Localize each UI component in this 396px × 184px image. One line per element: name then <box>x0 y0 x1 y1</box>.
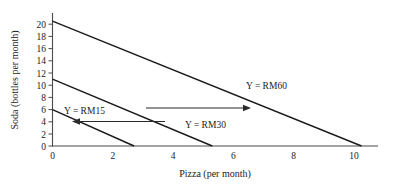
y-tick-label-12: 12 <box>37 69 47 79</box>
x-tick-label-4: 4 <box>171 151 176 161</box>
y-tick-label-4: 4 <box>41 117 46 127</box>
y-tick-label-2: 2 <box>41 130 46 140</box>
y-tick-label-0: 0 <box>41 142 46 152</box>
chart-background <box>0 0 396 184</box>
y-tick-label-20: 20 <box>37 20 47 30</box>
budget-constraint-chart: 0 2 4 6 8 10 12 14 16 18 20 0 2 4 6 8 10 <box>0 0 396 184</box>
y-tick-label-8: 8 <box>41 93 46 103</box>
x-tick-label-0: 0 <box>50 151 55 161</box>
y-tick-label-18: 18 <box>37 32 47 42</box>
y-axis-title: Soda (bottles per month) <box>9 30 21 129</box>
x-axis-title: Pizza (per month) <box>179 168 251 180</box>
series-label-rm15: Y = RM15 <box>64 106 105 116</box>
y-tick-label-16: 16 <box>37 44 47 54</box>
series-label-rm60: Y = RM60 <box>246 81 287 91</box>
x-tick-label-2: 2 <box>110 151 115 161</box>
chart-figure: 0 2 4 6 8 10 12 14 16 18 20 0 2 4 6 8 10 <box>0 0 396 184</box>
y-tick-label-14: 14 <box>37 56 47 66</box>
x-tick-label-10: 10 <box>349 151 359 161</box>
x-tick-label-6: 6 <box>231 151 236 161</box>
x-tick-label-8: 8 <box>291 151 296 161</box>
y-tick-label-6: 6 <box>41 105 46 115</box>
series-label-rm30: Y = RM30 <box>185 120 226 130</box>
y-tick-label-10: 10 <box>37 81 47 91</box>
